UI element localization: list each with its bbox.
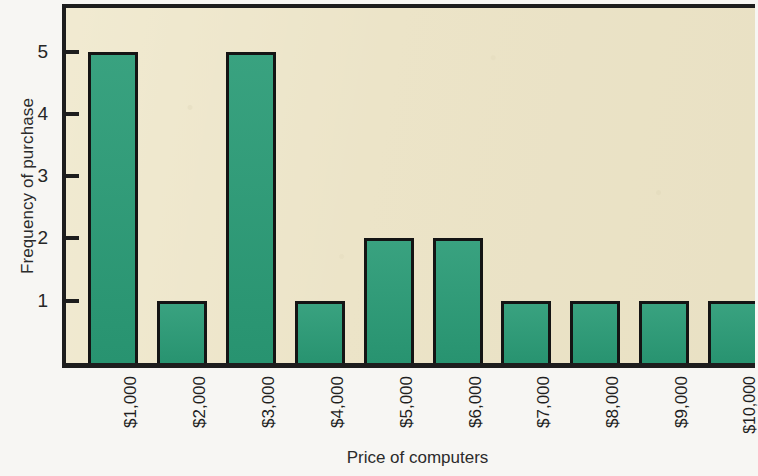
y-tick-label-3: 3 xyxy=(26,166,48,185)
bar-face xyxy=(711,304,755,363)
bar-face xyxy=(160,304,204,363)
y-tick-mark-3 xyxy=(66,174,79,178)
bar-face xyxy=(367,241,411,363)
y-tick-mark-1 xyxy=(66,299,79,303)
x-axis-title: Price of computers xyxy=(0,448,755,468)
plot-area xyxy=(62,4,755,368)
bar-face xyxy=(229,55,273,363)
bar xyxy=(295,301,345,363)
y-tick-label-4: 4 xyxy=(26,104,48,123)
y-tick-mark-4 xyxy=(66,112,79,116)
bar xyxy=(570,301,620,363)
bar xyxy=(708,301,755,363)
bar-face xyxy=(298,304,342,363)
y-tick-mark-2 xyxy=(66,236,79,240)
bar-face xyxy=(91,55,135,363)
y-tick-label-2: 2 xyxy=(26,228,48,247)
y-tick-label-5: 5 xyxy=(26,42,48,61)
bar-face xyxy=(436,241,480,363)
y-tick-mark-5 xyxy=(66,50,79,54)
bar xyxy=(157,301,207,363)
y-tick-label-1: 1 xyxy=(26,291,48,310)
y-axis-title: Frequency of purchase xyxy=(18,66,38,306)
bar xyxy=(364,238,414,363)
bar-face xyxy=(573,304,617,363)
bar-face xyxy=(642,304,686,363)
bar-face xyxy=(504,304,548,363)
bar xyxy=(501,301,551,363)
bar xyxy=(433,238,483,363)
bar xyxy=(639,301,689,363)
bar xyxy=(88,52,138,363)
plot-inner xyxy=(66,8,755,363)
bar xyxy=(226,52,276,363)
